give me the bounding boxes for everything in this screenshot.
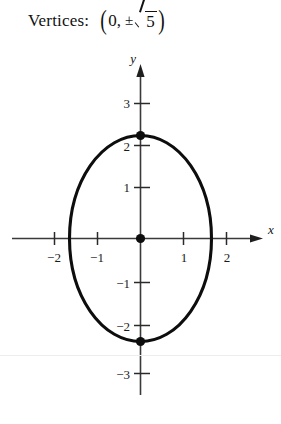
x-tick-label-neg2: −2 [47, 250, 61, 265]
y-tick-label-neg2: −2 [116, 319, 130, 334]
x-tick-label-1: 1 [181, 250, 188, 265]
open-paren: ( [101, 8, 107, 32]
graph-canvas: y x 3 2 1 −1 −2 −3 −2 −1 1 2 [0, 50, 281, 424]
x-coordinate-value: 0 [108, 12, 117, 29]
vertex-top-marker [136, 131, 145, 140]
center-point-marker [136, 234, 145, 243]
close-paren: ) [158, 8, 164, 32]
y-tick-label-2: 2 [124, 139, 131, 154]
x-tick-label-2: 2 [224, 250, 231, 265]
y-axis-label: y [128, 51, 136, 66]
y-tick-label-neg3: −3 [116, 367, 130, 382]
coordinate-pair: 0, ± 5 [108, 11, 156, 30]
y-tick-label-neg1: −1 [116, 276, 130, 291]
y-tick-label-3: 3 [124, 96, 131, 111]
x-axis-arrowhead [250, 234, 263, 242]
radical-tick [135, 11, 146, 30]
vertex-bottom-marker [136, 337, 145, 346]
radicand-value: 5 [145, 11, 157, 30]
y-axis-arrowhead [136, 64, 144, 77]
page-seam-line [0, 355, 281, 356]
plus-minus-icon: ± [125, 13, 133, 28]
x-axis-label: x [267, 222, 274, 237]
coordinate-separator: , [117, 12, 121, 29]
vertices-caption: Vertices: ( 0, ± 5 ) [28, 8, 166, 32]
y-tick-label-1: 1 [124, 180, 131, 195]
ellipse-graph: y x 3 2 1 −1 −2 −3 −2 −1 1 2 [0, 50, 281, 424]
x-tick-label-neg1: −1 [90, 250, 104, 265]
vertices-label: Vertices: [28, 12, 89, 29]
square-root-icon: 5 [135, 11, 157, 30]
